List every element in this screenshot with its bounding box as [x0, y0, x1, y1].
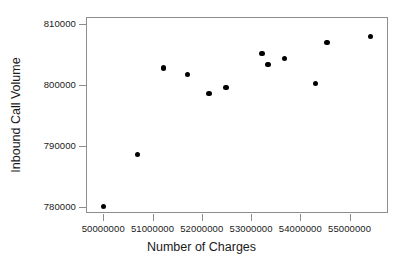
- data-points-layer: [87, 18, 387, 212]
- x-axis-tick-label: 52000000: [180, 224, 223, 234]
- x-axis-tick: [103, 214, 104, 221]
- data-point: [185, 72, 190, 77]
- x-axis-tick: [251, 214, 252, 221]
- data-point: [313, 81, 318, 86]
- x-axis-tick: [153, 214, 154, 221]
- y-axis-tick-label: 790000: [44, 141, 76, 151]
- y-axis-tick: [79, 24, 86, 25]
- data-point: [324, 40, 329, 45]
- data-point: [101, 204, 106, 209]
- x-axis-tick: [202, 214, 203, 221]
- data-point: [368, 34, 373, 39]
- y-axis-tick-label: 800000: [44, 80, 76, 90]
- data-point: [161, 65, 166, 70]
- data-point: [223, 85, 228, 90]
- scatter-chart: 780000790000800000810000 500000005100000…: [0, 0, 403, 266]
- y-axis-tick: [79, 146, 86, 147]
- x-axis-tick-label: 50000000: [82, 224, 125, 234]
- x-axis-tick-label: 54000000: [279, 224, 322, 234]
- x-axis-tick: [300, 214, 301, 221]
- x-axis-tick-label: 53000000: [229, 224, 272, 234]
- data-point: [265, 62, 270, 67]
- data-point: [259, 51, 264, 56]
- y-axis-tick: [79, 85, 86, 86]
- x-axis-title: Number of Charges: [0, 240, 403, 254]
- x-axis-tick-label: 51000000: [131, 224, 174, 234]
- data-point: [282, 56, 287, 61]
- y-axis-tick-label: 810000: [44, 19, 76, 29]
- y-axis-tick: [79, 207, 86, 208]
- y-axis-tick-label: 780000: [44, 202, 76, 212]
- y-axis-title: Inbound Call Volume: [8, 17, 24, 213]
- x-axis-tick-label: 55000000: [328, 224, 371, 234]
- data-point: [206, 91, 211, 96]
- x-axis-tick: [350, 214, 351, 221]
- data-point: [135, 152, 140, 157]
- plot-area: [86, 17, 388, 213]
